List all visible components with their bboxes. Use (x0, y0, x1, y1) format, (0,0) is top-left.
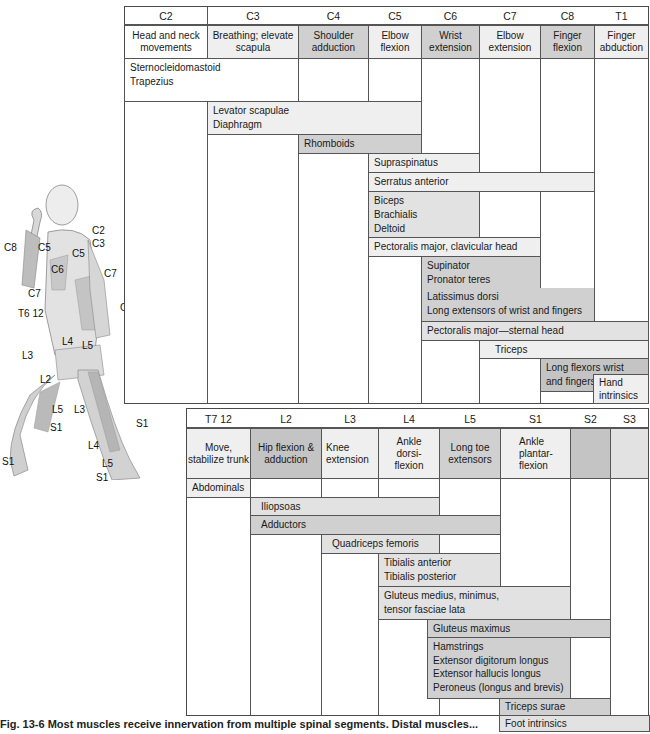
function-s1: Ankle plantar- flexion (501, 428, 571, 479)
muscle-supraspinatus: Supraspinatus (368, 153, 480, 173)
segment-l2: L2 (251, 410, 321, 428)
function-c6: Wrist extension (422, 25, 480, 59)
label-l3-thigh: L3 (22, 350, 33, 361)
label-s1-leg: S1 (136, 418, 148, 429)
label-l5-ankle: L5 (102, 458, 113, 469)
muscle-gluteus-medius: Gluteus medius, minimus, tensor fasciae … (378, 586, 571, 620)
muscle-rhomboids: Rhomboids (298, 134, 422, 154)
function-t7-12: Move, stabilize trunk (187, 428, 251, 479)
function-l3: Knee extension (322, 428, 379, 479)
muscle-latissimus-long-extensors: Latissimus dorsi Long extensors of wrist… (421, 288, 595, 322)
label-l4-hip: L4 (62, 336, 73, 347)
muscle-hamstrings-extensors-peroneus: Hamstrings Extensor digitorum longus Ext… (427, 637, 571, 699)
segment-s1: S1 (501, 410, 570, 428)
label-l3-knee: L3 (74, 404, 85, 415)
muscle-tibialis: Tibialis anterior Tibialis posterior (378, 553, 501, 587)
label-c7-arm: C7 (104, 268, 117, 279)
muscle-quadriceps: Quadriceps femoris (321, 534, 440, 554)
label-c2: C2 (92, 225, 105, 236)
label-c7-forearm: C7 (28, 288, 41, 299)
segment-s3: S3 (611, 410, 648, 428)
muscle-pectoralis-clavicular: Pectoralis major, clavicular head (368, 237, 541, 257)
label-s1-foot-front: S1 (96, 472, 108, 483)
label-c3: C3 (92, 238, 105, 249)
muscle-levator-diaphragm: Levator scapulae Diaphragm (207, 101, 422, 135)
segment-c3: C3 (208, 7, 298, 25)
label-l5-hip: L5 (82, 340, 93, 351)
segment-t1: T1 (595, 7, 648, 25)
segment-t7-12: T7 12 (187, 410, 250, 428)
muscle-iliopsoas: Iliopsoas (250, 497, 440, 516)
segment-l5: L5 (440, 410, 500, 428)
label-s1-calf: S1 (50, 422, 62, 433)
segment-c4: C4 (299, 7, 368, 25)
muscle-triceps: Triceps (479, 340, 649, 359)
function-c4: Shoulder adduction (299, 25, 369, 59)
muscle-adductors: Adductors (250, 515, 501, 535)
label-s1-foot-back: S1 (2, 456, 14, 467)
function-c8: Finger flexion (541, 25, 595, 59)
label-t6: T6 12 (18, 308, 44, 319)
muscle-serratus-anterior: Serratus anterior (368, 172, 595, 192)
muscle-biceps-brachialis-deltoid: Biceps Brachialis Deltoid (368, 191, 480, 239)
segment-c6: C6 (422, 7, 479, 25)
label-l4-shin: L4 (88, 440, 99, 451)
function-t1: Finger abduction (595, 25, 648, 59)
segment-c5: C5 (369, 7, 421, 25)
label-l5-knee: L5 (52, 404, 63, 415)
segment-c2: C2 (125, 7, 207, 25)
function-c2: Head and neck movements (125, 25, 208, 59)
muscle-abdominals: Abdominals (186, 478, 251, 498)
segment-l4: L4 (379, 410, 439, 428)
segment-s2: S2 (571, 410, 610, 428)
muscle-gluteus-maximus: Gluteus maximus (427, 619, 611, 638)
muscle-foot-intrinsics: Foot intrinsics (499, 715, 650, 732)
function-l5: Long toe extensors (440, 428, 501, 479)
function-s3 (611, 428, 648, 479)
segment-c8: C8 (541, 7, 594, 25)
lower-limb-table: T7 12 L2 L3 L4 L5 S1 S2 S3 Move, stabili… (186, 408, 649, 716)
muscle-pectoralis-sternal: Pectoralis major—sternal head (421, 321, 649, 341)
muscle-supinator-pronator: Supinator Pronator teres (421, 256, 541, 290)
function-c3: Breathing; elevate scapula (208, 25, 299, 59)
figure-caption: Fig. 13-6 Most muscles receive innervati… (0, 718, 478, 730)
muscle-hand-intrinsics-label: Hand intrinsics (593, 374, 649, 404)
label-c5-arm: C5 (38, 242, 51, 253)
function-c5: Elbow flexion (369, 25, 422, 59)
function-c7: Elbow extension (480, 25, 541, 59)
segment-l3: L3 (322, 410, 378, 428)
function-s2 (571, 428, 611, 479)
muscle-triceps-surae: Triceps surae (499, 698, 611, 716)
upper-limb-table: C2 C3 C4 C5 C6 C7 C8 T1 Head and neck mo… (124, 6, 649, 404)
label-c8: C8 (4, 242, 17, 253)
label-l2: L2 (40, 374, 51, 385)
label-c6-chest: C6 (51, 264, 64, 275)
function-l2: Hip flexion & adduction (251, 428, 322, 479)
segment-c7: C7 (480, 7, 540, 25)
function-l4: Ankle dorsi- flexion (379, 428, 440, 479)
muscle-sternocleidomastoid-trapezius: Sternocleidomastoid Trapezius (124, 58, 299, 102)
label-c5-shoulder: C5 (72, 248, 85, 259)
